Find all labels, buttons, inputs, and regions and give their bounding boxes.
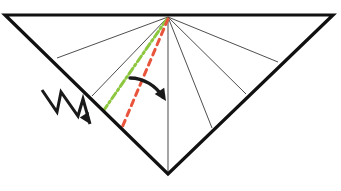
diagram-canvas [0, 0, 341, 191]
background-rect [0, 0, 341, 191]
diagram-svg [0, 0, 341, 191]
